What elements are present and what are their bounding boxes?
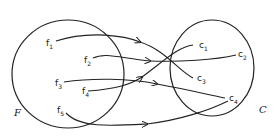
element-f1: f1 bbox=[46, 38, 53, 50]
element-f4: f4 bbox=[82, 86, 89, 98]
arrow-f3-c4 bbox=[64, 79, 157, 84]
element-c2: c2 bbox=[238, 49, 247, 61]
set-c-circle bbox=[170, 20, 254, 116]
mapping-diagram: f1 f2 f3 f4 f5 c1 c2 c3 c4 F C bbox=[0, 0, 278, 136]
set-f-circle bbox=[12, 20, 124, 128]
element-f5: f5 bbox=[57, 105, 64, 117]
arrow-f1-c3 bbox=[56, 35, 140, 42]
element-c4: c4 bbox=[229, 93, 238, 105]
element-f2: f2 bbox=[84, 55, 91, 67]
element-c3: c3 bbox=[197, 73, 206, 85]
arrow-f5-c4 bbox=[66, 113, 147, 125]
arrow-f5-c4-tail bbox=[147, 101, 228, 124]
arrow-f2-c2-tail bbox=[150, 55, 236, 61]
set-label-c: C bbox=[259, 104, 267, 115]
set-label-f: F bbox=[13, 107, 22, 118]
element-f3: f3 bbox=[55, 78, 62, 90]
element-c1: c1 bbox=[199, 40, 208, 52]
arrow-f3-c4-tail bbox=[157, 84, 225, 98]
